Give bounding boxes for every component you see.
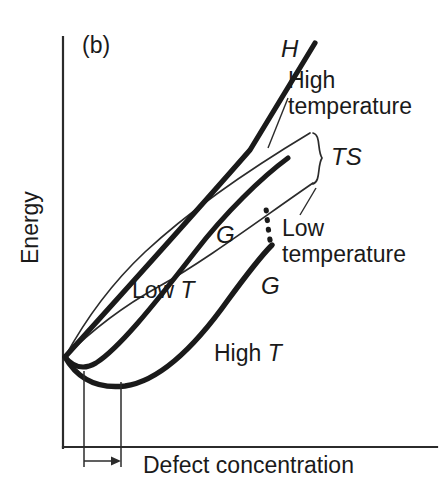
ts-brace [313,133,322,184]
gibbs-label-G-low-t: G [216,222,235,247]
curve-enthalpy-H [65,43,315,357]
curve-label-low-t: Low T [132,278,195,302]
figure-panel-b: (b) Energy Defect concentration H High t… [0,0,447,491]
panel-label: (b) [82,33,110,57]
curve-label-low-t-text: Low [132,277,181,303]
entropy-term-label-TS: TS [331,144,362,169]
curve-low-temperature-thin [65,183,313,357]
enthalpy-label-H: H [281,36,298,61]
leader-low-temperature [300,188,316,215]
low-temperature-label-line2: temperature [282,242,406,266]
x-axis-label: Defect concentration [143,453,354,477]
curve-label-low-t-symbol: T [181,277,195,303]
shift-arrow-head [111,457,121,466]
curve-label-high-t-text: High [214,340,268,366]
high-temperature-label-line1: High [288,68,335,92]
enthalpy-curve-group [65,43,315,357]
low-temperature-label-line1: Low [282,216,324,240]
curve-label-high-t-symbol: T [268,340,282,366]
curve-label-high-t: High T [214,341,282,365]
y-axis-label: Energy [18,191,42,264]
high-temperature-label-line2: temperature [288,94,412,118]
gibbs-label-G-high-t: G [261,273,280,298]
